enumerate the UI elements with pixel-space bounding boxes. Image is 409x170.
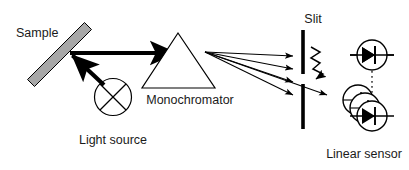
spectrometer-diagram: Sample Light source Monochromator Slit L…	[0, 0, 409, 170]
monochromator-component	[142, 33, 215, 88]
label-sample: Sample	[16, 26, 58, 40]
prism-triangle	[142, 33, 215, 88]
wavy-arrow-path	[311, 47, 323, 79]
label-linear-sensor: Linear sensor	[326, 147, 402, 161]
selected-wavelength-beam	[311, 47, 323, 79]
label-monochromator: Monochromator	[146, 93, 234, 107]
photodiode-array	[343, 85, 394, 131]
beam-source-to-sample	[73, 56, 105, 86]
figure-canvas: Sample Light source Monochromator Slit L…	[0, 0, 409, 170]
dispersed-ray-fan	[205, 52, 327, 95]
ray-5	[205, 52, 327, 95]
label-light-source: Light source	[79, 133, 147, 147]
photodiode-single	[350, 40, 394, 70]
label-slit: Slit	[304, 12, 322, 26]
ray-4	[205, 52, 293, 95]
ray-1	[205, 52, 293, 56]
